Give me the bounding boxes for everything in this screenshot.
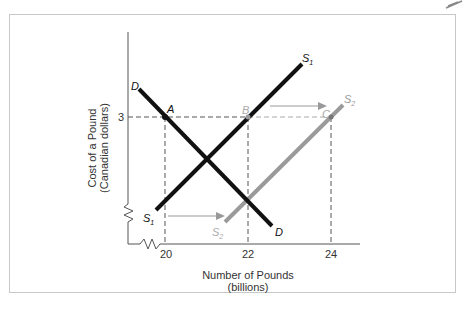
x-axis-title-line2: (billions): [228, 281, 269, 293]
y-tick-3: 3: [118, 111, 124, 123]
x-axis-title-line1: Number of Pounds: [202, 269, 294, 281]
x-tick-22: 22: [242, 248, 254, 260]
supply-demand-diagram: D D S1 S1 S2 S2 A B C 3 20 22 24 Number …: [0, 0, 466, 315]
arrow-right-icon: [216, 212, 225, 220]
point-a-label: A: [166, 103, 174, 115]
y-axis-title-line2: (Canadian dollars): [98, 103, 110, 193]
x-tick-20: 20: [160, 248, 172, 260]
y-axis-title-line1: Cost of a Pound: [86, 109, 98, 188]
axis-break-icon: [140, 239, 160, 249]
point-c-label: C: [322, 108, 330, 120]
y-axis-title: Cost of a Pound (Canadian dollars): [86, 103, 110, 193]
supply-curve-s1: [156, 64, 302, 210]
point-b-label: B: [242, 104, 249, 116]
s2-label-top: S2: [344, 93, 355, 107]
demand-label-top: D: [131, 80, 139, 92]
x-tick-24: 24: [325, 248, 337, 260]
guide-lines-gray: [248, 117, 331, 244]
demand-label-bottom: D: [275, 226, 283, 238]
s1-label-bottom: S1: [143, 212, 154, 226]
s2-label-bottom: S2: [212, 226, 223, 240]
y-axis: [124, 32, 133, 244]
axis-break-icon: [124, 204, 133, 222]
corner-mark-icon: [446, 1, 462, 8]
s1-label-top: S1: [302, 52, 313, 66]
